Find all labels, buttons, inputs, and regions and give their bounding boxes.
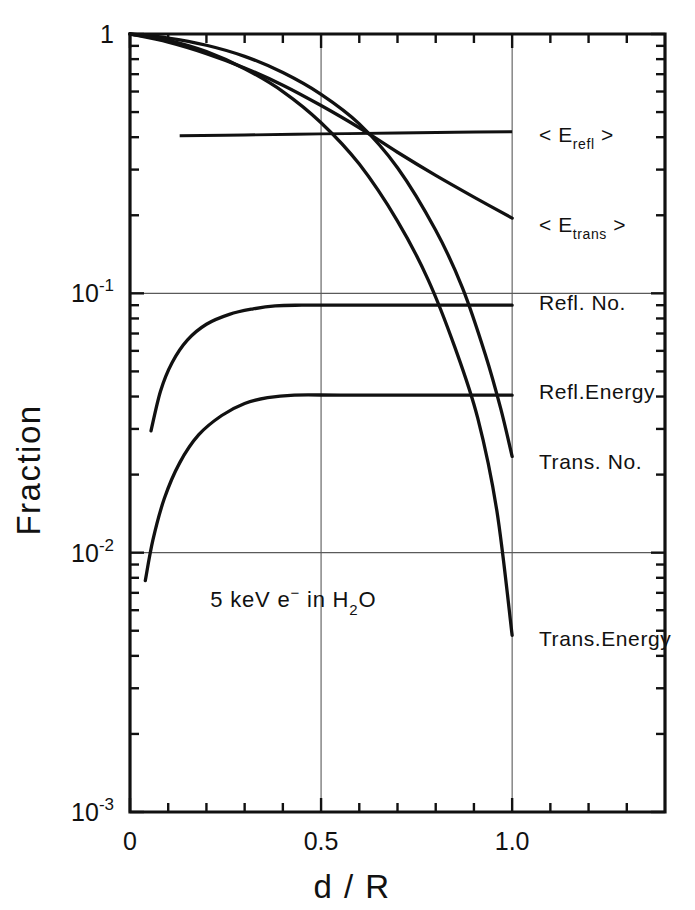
x-tick-label: 0.5 <box>304 827 339 855</box>
y-tick-label: 1 <box>100 20 114 48</box>
y-axis-title: Fraction <box>10 404 47 535</box>
series-label: < Etrans > <box>539 213 626 242</box>
chart-svg: 00.51.0110-110-210-3 < Erefl >< Etrans >… <box>0 0 695 910</box>
series-label: < Erefl > <box>539 123 614 152</box>
y-tick-label: 10-2 <box>71 536 114 567</box>
x-axis-title: d / R <box>313 868 390 905</box>
y-tick-label: 10-3 <box>71 795 114 826</box>
series-label: Trans.Energy <box>539 627 671 650</box>
series-label: Trans. No. <box>539 450 642 473</box>
series-curve <box>151 305 512 431</box>
series-label: Refl.Energy <box>539 380 655 403</box>
x-tick-label: 1.0 <box>495 827 530 855</box>
y-tick-label: 10-1 <box>71 276 114 307</box>
series-labels-group: < Erefl >< Etrans >Refl. No.Refl.EnergyT… <box>539 123 671 649</box>
tick-labels-group: 00.51.0110-110-210-3 <box>71 20 529 855</box>
annotations-group: 5 keV e− in H2O <box>210 584 376 618</box>
x-tick-label: 0 <box>123 827 137 855</box>
series-label: Refl. No. <box>539 291 626 314</box>
series-curve <box>180 132 512 136</box>
figure-page: 00.51.0110-110-210-3 < Erefl >< Etrans >… <box>0 0 695 910</box>
chart-annotation: 5 keV e− in H2O <box>210 584 376 618</box>
